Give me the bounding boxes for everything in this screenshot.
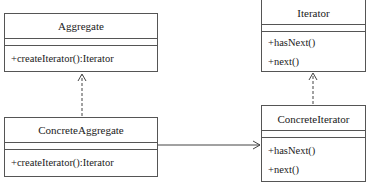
realization-arrow-aggregate [78,74,86,116]
realization-arrow-iterator [309,73,317,104]
association-arrow [158,141,260,149]
connectors [0,0,370,183]
